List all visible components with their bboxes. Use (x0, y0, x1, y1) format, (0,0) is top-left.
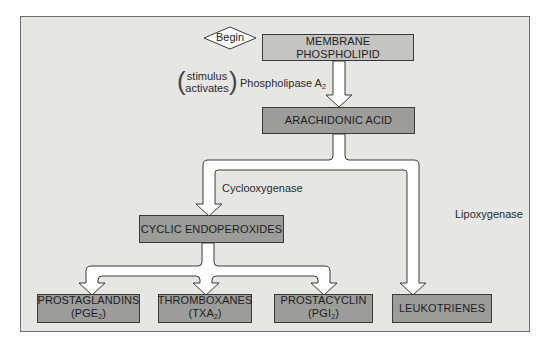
node-membrane-phospholipid-label: MEMBRANE PHOSPHOLIPID (263, 35, 413, 61)
stimulus-text: stimulus (184, 70, 230, 82)
node-prostacyclin-label: PROSTACYCLIN (281, 294, 367, 307)
arrow-cyclic-to-products (79, 243, 337, 295)
node-leukotrienes: LEUKOTRIENES (392, 294, 492, 323)
node-cyclic-endoperoxides: CYCLIC ENDOPEROXIDES (139, 215, 284, 243)
node-prostacyclin-abbr: (PGI2) (308, 307, 339, 323)
arrow-membrane-to-arachidonic (326, 61, 352, 107)
node-prostaglandins-abbr: (PGE2) (71, 307, 106, 323)
node-thromboxanes-abbr: (TXA2) (188, 307, 221, 323)
node-prostacyclin: PROSTACYCLIN (PGI2) (274, 294, 373, 323)
begin-label: Begin (216, 31, 244, 43)
cyclooxygenase-label: Cyclooxygenase (222, 182, 303, 194)
node-arachidonic-acid-label: ARACHIDONIC ACID (285, 114, 392, 127)
node-thromboxanes: THROMBOXANES (TXA2) (158, 294, 252, 323)
lipoxygenase-label: Lipoxygenase (455, 208, 523, 220)
node-cyclic-endoperoxides-label: CYCLIC ENDOPEROXIDES (141, 223, 282, 236)
stimulus-activates-note: stimulus activates (184, 70, 230, 94)
activates-text: activates (184, 82, 230, 94)
node-leukotrienes-label: LEUKOTRIENES (399, 302, 485, 315)
close-paren: ) (229, 68, 238, 94)
phospholipase-label: Phospholipase A2 (240, 77, 326, 90)
node-arachidonic-acid: ARACHIDONIC ACID (262, 107, 415, 134)
node-prostaglandins-label: PROSTAGLANDINS (37, 294, 139, 307)
phospholipase-subscript: 2 (322, 83, 326, 90)
phospholipase-text: Phospholipase A (240, 77, 322, 89)
node-thromboxanes-label: THROMBOXANES (158, 294, 253, 307)
node-membrane-phospholipid: MEMBRANE PHOSPHOLIPID (262, 34, 414, 61)
node-prostaglandins: PROSTAGLANDINS (PGE2) (37, 294, 140, 323)
